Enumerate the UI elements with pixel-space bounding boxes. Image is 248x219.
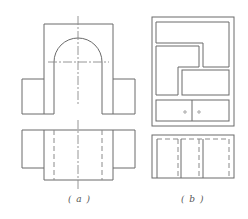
panel-b-front-view: [152, 17, 234, 126]
drawer-knob-right: [198, 111, 200, 113]
technical-drawing: [0, 0, 248, 219]
panel-a-front-view: [22, 16, 135, 114]
panel-b-top-view: [152, 135, 234, 178]
panel-a-top-view: [22, 120, 135, 190]
drawer-knob-left: [184, 111, 186, 113]
panel-b-label: ( b ): [181, 194, 205, 204]
panel-a-label: ( a ): [68, 194, 91, 204]
